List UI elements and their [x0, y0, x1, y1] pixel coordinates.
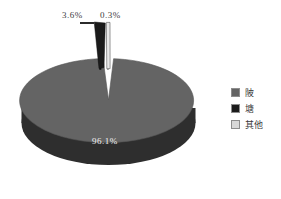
legend-label-2: 其他 [245, 120, 263, 130]
legend-label-1: 塘 [245, 104, 254, 114]
legend-item-0: 陂 [231, 87, 263, 98]
legend-swatch-icon-2 [231, 120, 240, 129]
legend-label-0: 陂 [245, 88, 254, 98]
pie-slice-main-top [20, 59, 194, 143]
legend-swatch-icon-0 [231, 88, 240, 97]
pie-label-96-1-percent: 96.1% [92, 136, 118, 146]
legend-swatch-icon-1 [231, 104, 240, 113]
pie-label-0-3-percent: 0.3% [100, 10, 121, 20]
pie-chart-figure: 3.6% 0.3% 96.1% 陂 塘 其他 [0, 0, 281, 199]
pie-label-3-6-percent: 3.6% [62, 10, 83, 20]
chart-legend: 陂 塘 其他 [231, 87, 263, 130]
legend-item-1: 塘 [231, 103, 263, 114]
legend-item-2: 其他 [231, 119, 263, 130]
pie-label-leader-line [80, 22, 94, 24]
pie-slice-small-light [106, 22, 110, 70]
